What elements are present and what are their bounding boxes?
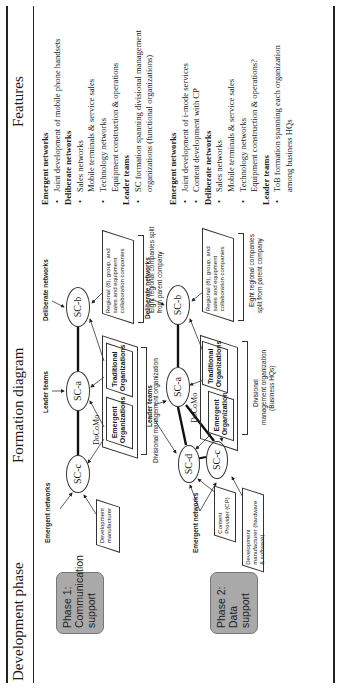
cp-line2: (CP) bbox=[224, 497, 230, 509]
node-sc-d-2: SC-d bbox=[178, 445, 200, 483]
divisional-brace-2 bbox=[242, 341, 248, 435]
traditional-org2-line2: Organizations bbox=[215, 345, 223, 387]
node-sc-b-2: SC-b bbox=[166, 285, 190, 325]
feature-heading: Emergent networks bbox=[168, 5, 180, 205]
feature-continuation: Mobile terminals & service sales bbox=[226, 5, 238, 205]
development-manufacturer-box-2: Development manufacturer (hardware & sof… bbox=[242, 487, 264, 572]
regional-companies-box-2: Regional (8), group, and sales and equip… bbox=[202, 228, 234, 322]
feature-heading: Deliberate networks bbox=[203, 5, 215, 205]
emergent-org2-line2: Organizations bbox=[221, 395, 229, 435]
emergent-networks-label-2: Emergent networks bbox=[192, 493, 199, 553]
emergent-org2-line1: Emergent bbox=[213, 395, 221, 435]
regional2-line3: companies bbox=[219, 246, 225, 275]
node-sc-a-2: SC-a bbox=[166, 367, 190, 407]
emergent-organizations-box-2: Emergent Organizations bbox=[208, 391, 234, 441]
traditional-organizations-box-2: Traditional Organizations bbox=[202, 341, 228, 393]
eight-regional-brace-2 bbox=[238, 233, 244, 321]
docomo-label-2: DoCoMo bbox=[190, 393, 199, 423]
feature-bullet: Content development with CP bbox=[191, 5, 203, 205]
rotated-table-page: Development phase Formation diagram Feat… bbox=[0, 0, 340, 689]
feature-bullet: Sales networks bbox=[214, 5, 226, 205]
feature-continuation: among business HQs bbox=[284, 5, 296, 205]
eight-regional-caption-2-line2: split from parent company bbox=[256, 238, 263, 313]
divisional-caption-2-line2: management organization bbox=[260, 350, 267, 425]
feature-heading: Leader teams bbox=[261, 5, 273, 205]
feature-bullet: Technology networks bbox=[238, 5, 250, 205]
dev2-line1: Development manufacturer bbox=[245, 529, 258, 564]
content-provider-box: Content Provider (CP) bbox=[214, 485, 236, 542]
feature-bullet: ToB formation spanning each organization bbox=[272, 5, 284, 205]
cp-line1: Content Provider bbox=[217, 511, 230, 533]
leader-teams-label-2: Leader teams bbox=[146, 385, 153, 427]
feature-continuation: Equipment construction & operations? bbox=[249, 5, 261, 205]
divisional-caption-2-line1: Divisional bbox=[252, 379, 259, 407]
traditional-org2-line1: Traditional bbox=[207, 345, 215, 387]
features-phase-2: Emergent networks Joint development of i… bbox=[168, 5, 296, 205]
deliberate-networks-label-2: Deliberate networks bbox=[144, 257, 151, 319]
divisional-caption-2-line3: (Business HQs) bbox=[268, 365, 275, 411]
feature-bullet: Joint development of i-mode services bbox=[180, 5, 192, 205]
eight-regional-caption-2-line1: Eight regional companies bbox=[248, 234, 255, 307]
